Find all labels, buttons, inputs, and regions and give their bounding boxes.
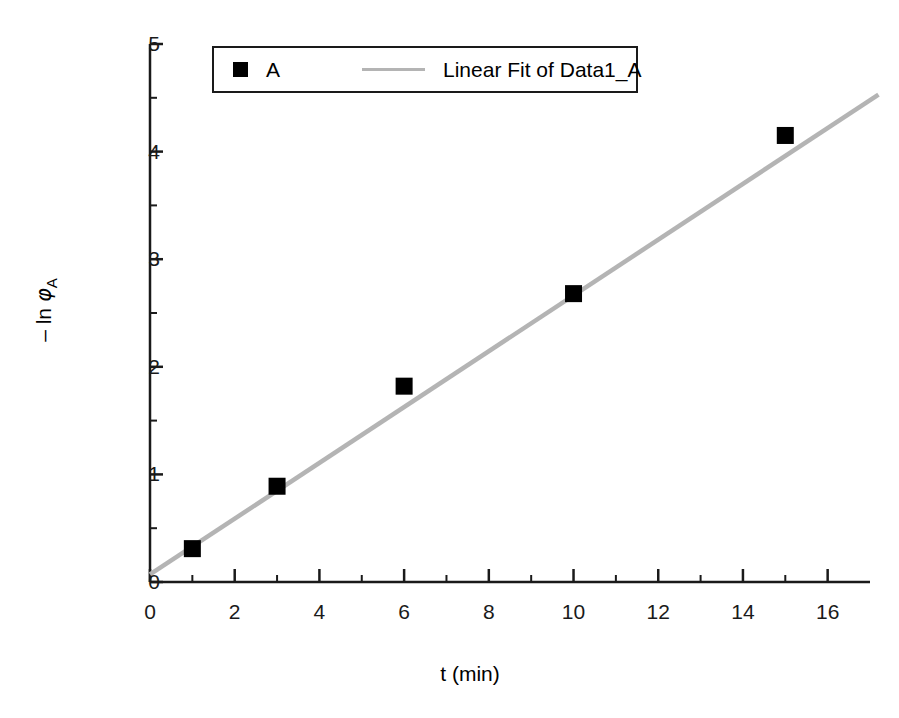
x-tick-label: 4 [314,600,326,624]
legend-entry-data: A [233,48,280,91]
y-axis-title-symbol: φ [32,288,56,302]
x-tick-label: 6 [398,600,410,624]
y-axis-title: – ln φA [32,278,59,342]
x-tick-label: 0 [144,600,156,624]
x-axis-title: t (min) [440,662,500,686]
line-swatch-icon [362,68,425,71]
data-point-marker [269,478,286,495]
chart-legend: A Linear Fit of Data1_A [212,46,638,93]
x-axis-major-ticks [150,569,828,582]
legend-entry-fit: Linear Fit of Data1_A [362,48,641,91]
y-tick-label: 1 [130,462,160,486]
x-tick-label: 2 [229,600,241,624]
y-axis-title-prefix: – ln [32,302,55,342]
chart-figure: 0246810121416 012345 t (min) – ln φA A L… [0,0,899,718]
y-tick-label: 2 [130,355,160,379]
y-tick-label: 4 [130,140,160,164]
y-tick-label: 5 [130,32,160,56]
x-tick-label: 8 [483,600,495,624]
y-axis-title-subscript: A [43,278,60,288]
x-tick-label: 12 [647,600,670,624]
legend-label-fit: Linear Fit of Data1_A [443,58,641,82]
data-point-marker [777,127,794,144]
data-point-marker [565,285,582,302]
x-tick-label: 14 [731,600,754,624]
y-tick-label: 0 [130,570,160,594]
data-point-marker [396,378,413,395]
filled-square-swatch-icon [233,62,248,77]
fit-line-segment [150,95,878,575]
y-tick-label: 3 [130,247,160,271]
linear-fit-line [150,95,878,575]
data-point-markers [184,127,794,557]
x-tick-label: 10 [562,600,585,624]
legend-label-data: A [266,58,280,82]
data-point-marker [184,540,201,557]
x-tick-label: 16 [816,600,839,624]
